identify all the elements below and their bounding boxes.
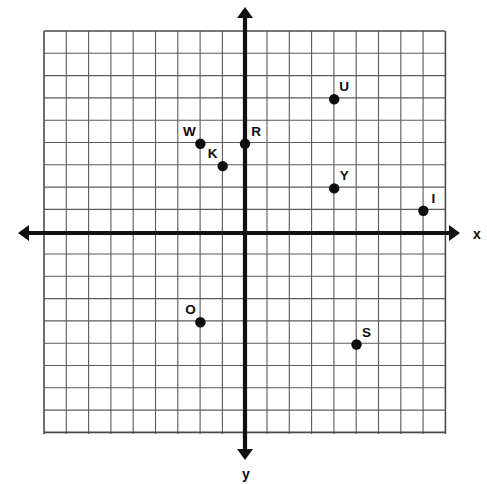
y-axis-arrow-up xyxy=(237,7,253,18)
point-label-s: S xyxy=(362,325,371,340)
axis-layer xyxy=(18,7,460,460)
x-axis-arrow-left xyxy=(18,225,29,241)
coordinate-plane-figure: WKRUYIOS xy xyxy=(0,0,487,484)
plotted-point-o[interactable] xyxy=(195,317,205,327)
coordinate-plane-svg: WKRUYIOS xy xyxy=(0,0,487,484)
y-axis-arrow-down xyxy=(237,449,253,460)
x-axis-arrow-right xyxy=(449,225,460,241)
point-label-k: K xyxy=(208,146,218,161)
x-axis-label: x xyxy=(473,226,481,242)
point-label-w: W xyxy=(183,124,196,139)
plotted-point-s[interactable] xyxy=(351,339,361,349)
plotted-point-k[interactable] xyxy=(218,161,228,171)
plotted-point-u[interactable] xyxy=(329,94,339,104)
point-label-u: U xyxy=(339,79,349,94)
plotted-point-i[interactable] xyxy=(418,206,428,216)
plotted-point-y[interactable] xyxy=(329,183,339,193)
point-label-r: R xyxy=(251,124,261,139)
point-label-i: I xyxy=(432,191,436,206)
point-label-y: Y xyxy=(340,168,349,183)
point-label-o: O xyxy=(185,302,196,317)
plotted-point-w[interactable] xyxy=(195,139,205,149)
plotted-point-r[interactable] xyxy=(240,139,250,149)
y-axis-label: y xyxy=(242,466,250,482)
